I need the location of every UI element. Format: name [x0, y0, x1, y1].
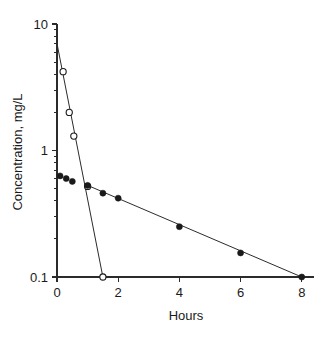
y-tick-label-0.1: 0.1 [30, 270, 48, 285]
y-axis-tick-labels: 1010.1 [30, 17, 48, 285]
y-tick-label-1: 1 [41, 143, 48, 158]
series-fit-lines [57, 44, 302, 277]
x-axis-ticks [57, 277, 302, 282]
data-point-filled [115, 195, 121, 201]
data-point-open [100, 274, 106, 280]
series-data-markers [57, 69, 305, 281]
x-axis-title: Hours [169, 308, 204, 323]
data-point-filled [63, 176, 69, 182]
x-tick-label-0: 0 [53, 285, 60, 300]
data-point-filled [85, 182, 91, 188]
chart-container: 1010.1 02468 Hours Concentration, mg/L [0, 0, 332, 338]
data-point-filled [69, 178, 75, 184]
x-tick-label-2: 2 [115, 285, 122, 300]
x-tick-label-6: 6 [237, 285, 244, 300]
concentration-vs-hours-plot: 1010.1 02468 Hours Concentration, mg/L [0, 0, 332, 338]
y-tick-label-10: 10 [34, 17, 48, 32]
data-point-open [71, 133, 77, 139]
data-point-filled [176, 224, 182, 230]
data-point-filled [238, 250, 244, 256]
data-point-open [60, 69, 66, 75]
x-tick-label-4: 4 [176, 285, 183, 300]
y-axis-title: Concentration, mg/L [10, 93, 25, 210]
data-point-open [66, 109, 72, 115]
fit-line-distribution-phase [57, 44, 103, 277]
y-axis-ticks [52, 24, 57, 277]
data-point-filled [299, 274, 305, 280]
data-point-filled [57, 173, 63, 179]
data-point-filled [100, 190, 106, 196]
series-elimination-phase [57, 173, 305, 280]
x-tick-label-8: 8 [298, 285, 305, 300]
x-axis-tick-labels: 02468 [53, 285, 305, 300]
